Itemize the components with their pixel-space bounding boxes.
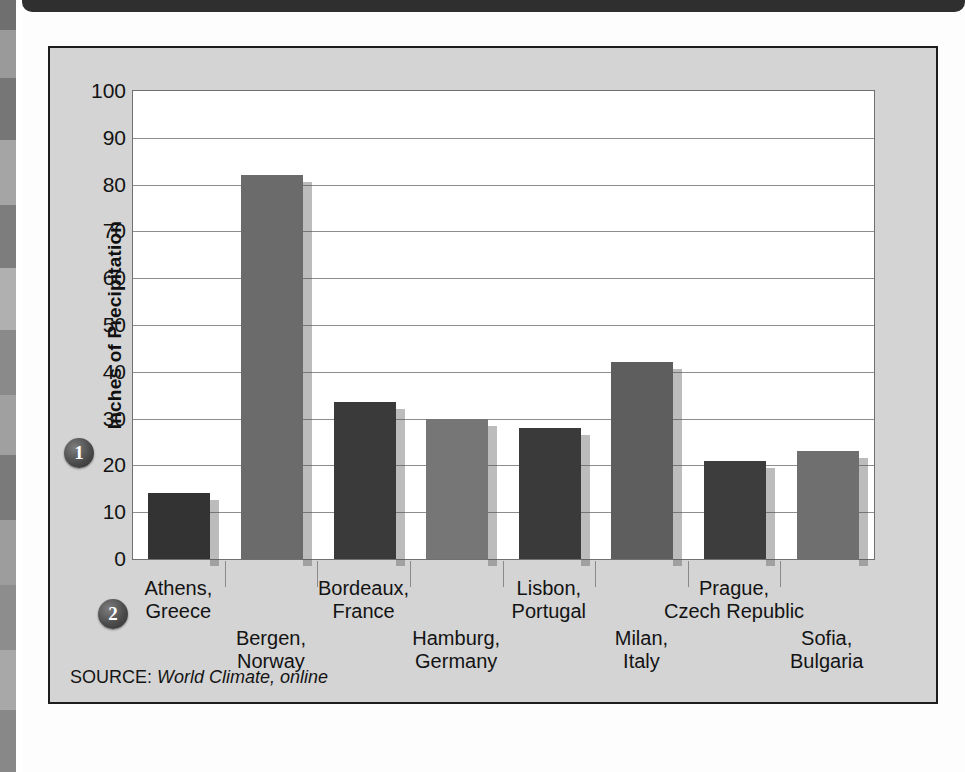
x-tick-label-line: Czech Republic [624,600,844,623]
bar-shadow [396,409,405,566]
bar-body [519,428,581,559]
source-label: SOURCE: [70,667,152,687]
bar-body [797,451,859,559]
y-tick-label: 30 [80,408,126,429]
bar-shadow [766,468,775,566]
y-tick-label: 90 [80,127,126,148]
x-tick-label-line: Prague, [624,577,844,600]
y-tick-label: 10 [80,501,126,522]
bar [241,175,303,559]
bar [797,451,859,559]
y-tick-label: 0 [80,548,126,569]
x-tick-label-line: Bulgaria [717,650,937,673]
callout-marker-2: 2 [98,599,128,629]
y-tick-label: 70 [80,220,126,241]
plot-area [132,90,875,560]
bar-shadow [581,435,590,566]
bar-body [241,175,303,559]
bar [148,493,210,559]
y-tick-label: 80 [80,174,126,195]
page-edge-strip [0,0,16,772]
bar-shadow [210,500,219,566]
source-note: SOURCE: World Climate, online [70,667,328,688]
y-axis-tick-labels: 1009080706050403020100 [64,90,126,560]
bar-body [611,362,673,559]
bars-layer [133,91,874,559]
x-tick-label: Prague,Czech Republic [624,577,844,623]
x-axis-tick-labels: Athens,GreeceBergen,NorwayBordeaux,Franc… [132,561,875,681]
bar-body [148,493,210,559]
bar-body [334,402,396,559]
bar [611,362,673,559]
bar [704,461,766,559]
x-tick-label-line: Sofia, [717,627,937,650]
y-tick-label: 40 [80,361,126,382]
callout-marker-1: 1 [64,438,94,468]
bar-body [704,461,766,559]
bar-shadow [303,182,312,566]
top-dark-band [22,0,965,12]
bar-body [426,419,488,559]
y-tick-label: 60 [80,267,126,288]
y-tick-label: 100 [80,80,126,101]
x-tick-label: Sofia,Bulgaria [717,627,937,673]
bar-shadow [488,426,497,566]
y-tick-label: 50 [80,314,126,335]
bar-shadow [673,369,682,566]
chart-card: Inches of Precipitation 1009080706050403… [48,46,938,704]
bar [334,402,396,559]
bar-shadow [859,458,868,566]
source-value: World Climate, online [157,667,328,687]
bar [519,428,581,559]
bar [426,419,488,559]
